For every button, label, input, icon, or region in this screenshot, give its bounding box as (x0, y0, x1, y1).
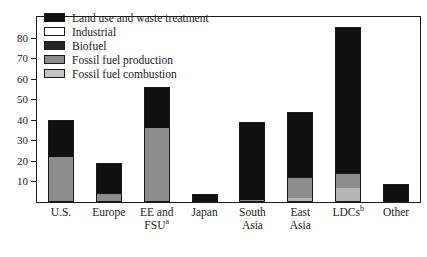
y-axis-tick-label: 10 (17, 176, 28, 187)
bar-segment (335, 188, 361, 202)
legend-swatch (44, 55, 65, 64)
legend-label: Biofuel (72, 40, 107, 52)
x-axis-labels: U.S.EuropeEE andFSUaJapanSouthAsiaEastAs… (37, 206, 420, 256)
methane-emissions-bar-chart: 1020304050607080 U.S.EuropeEE andFSUaJap… (0, 0, 427, 257)
y-axis-tick-label: 80 (17, 33, 28, 44)
bar-segment (48, 120, 74, 157)
bar-eastasia (287, 112, 313, 202)
legend-item: Fossil fuel production (44, 53, 284, 66)
bar-segment (144, 87, 170, 128)
x-axis-label-line2: Asia (229, 219, 277, 232)
x-axis-label: LDCsb (324, 206, 372, 219)
x-axis-label-line1: East (276, 206, 324, 219)
x-axis-label: Japan (181, 206, 229, 219)
bar-segment (287, 177, 313, 198)
x-axis-label: Europe (85, 206, 133, 219)
y-axis-tick-label: 60 (17, 74, 28, 85)
y-axis-tick-label: 20 (17, 156, 28, 167)
legend-swatch (44, 27, 65, 36)
legend-label: Fossil fuel production (72, 54, 173, 66)
legend-item: Biofuel (44, 39, 284, 52)
x-axis-label: SouthAsia (229, 206, 277, 232)
legend: Land use and waste treatmentIndustrialBi… (44, 11, 284, 81)
bar-segment (383, 184, 409, 203)
x-axis-label-line1: Europe (85, 206, 133, 219)
legend-swatch (44, 13, 65, 22)
y-axis-tick-label: 30 (17, 135, 28, 146)
bar-segment (48, 157, 74, 202)
x-axis-label-line1: Other (372, 206, 420, 219)
bar-segment (287, 198, 313, 202)
bar-segment (335, 27, 361, 173)
bar-ldcs (335, 27, 361, 202)
legend-item: Industrial (44, 25, 284, 38)
bar-segment (144, 128, 170, 202)
y-axis-tick-label: 50 (17, 94, 28, 105)
bar-segment (335, 173, 361, 187)
legend-swatch (44, 69, 65, 78)
x-axis-label-line1: U.S. (37, 206, 85, 219)
bar-segment (239, 200, 265, 202)
x-axis-label: EE andFSUa (133, 206, 181, 232)
legend-label: Land use and waste treatment (72, 12, 209, 24)
x-axis-label-line1: Japan (181, 206, 229, 219)
legend-item: Fossil fuel combustion (44, 67, 284, 80)
bar-segment (287, 112, 313, 178)
bar-japan (192, 194, 218, 202)
y-axis: 1020304050607080 (0, 0, 36, 203)
y-axis-tick-label: 40 (17, 115, 28, 126)
bar-segment (239, 122, 265, 200)
bar-eeandfsu (144, 87, 170, 202)
legend-item: Land use and waste treatment (44, 11, 284, 24)
x-axis-label-superscript: b (360, 204, 364, 213)
x-axis-label-line2: FSUa (133, 219, 181, 232)
legend-label: Industrial (72, 26, 116, 38)
legend-label: Fossil fuel combustion (72, 68, 177, 80)
bar-segment (192, 194, 218, 202)
bar-other (383, 184, 409, 203)
legend-swatch (44, 41, 65, 50)
bar-segment (96, 194, 122, 202)
bar-southasia (239, 122, 265, 202)
x-axis-label-line1: South (229, 206, 277, 219)
x-axis-label: EastAsia (276, 206, 324, 232)
y-axis-tick-label: 70 (17, 53, 28, 64)
x-axis-label-line2: Asia (276, 219, 324, 232)
x-axis-label: Other (372, 206, 420, 219)
bar-europe (96, 163, 122, 202)
x-axis-label-line1: EE and (133, 206, 181, 219)
x-axis-label-line1: LDCsb (324, 206, 372, 219)
x-axis-label-superscript: a (165, 217, 169, 226)
bar-us (48, 120, 74, 202)
x-axis-label: U.S. (37, 206, 85, 219)
bar-segment (96, 163, 122, 194)
